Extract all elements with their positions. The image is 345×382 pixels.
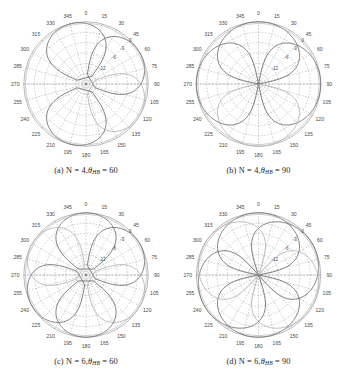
svg-text:330: 330	[219, 20, 228, 26]
svg-text:30: 30	[119, 211, 125, 217]
caption-sub-b: HB	[265, 169, 273, 175]
svg-text:-12: -12	[271, 257, 278, 262]
svg-text:45: 45	[133, 222, 139, 228]
svg-text:0: 0	[257, 10, 260, 16]
svg-text:330: 330	[46, 20, 55, 26]
panel-c: 0153045607590105120135150165180195210225…	[0, 191, 172, 382]
panel-a: 0153045607590105120135150165180195210225…	[0, 0, 172, 191]
svg-text:30: 30	[291, 211, 297, 217]
svg-text:60: 60	[144, 237, 150, 243]
svg-text:240: 240	[20, 307, 29, 313]
svg-text:150: 150	[117, 142, 126, 148]
svg-text:180: 180	[82, 343, 91, 349]
svg-text:-6: -6	[112, 246, 116, 251]
svg-text:210: 210	[46, 142, 55, 148]
caption-sub-a: HB	[92, 169, 100, 175]
svg-text:180: 180	[254, 343, 263, 349]
polar-plot-a: 0153045607590105120135150165180195210225…	[0, 0, 172, 166]
svg-text:300: 300	[193, 46, 202, 52]
panel-caption-b: (b) N = 4,θHB = 90	[172, 166, 345, 175]
svg-text:-6: -6	[112, 55, 116, 60]
svg-text:-12: -12	[99, 66, 106, 71]
svg-text:315: 315	[204, 31, 213, 37]
svg-text:0: 0	[85, 10, 88, 16]
svg-text:-6: -6	[285, 55, 289, 60]
svg-text:135: 135	[132, 131, 141, 137]
svg-text:285: 285	[13, 63, 22, 69]
svg-text:45: 45	[306, 222, 312, 228]
svg-text:165: 165	[273, 149, 282, 155]
svg-text:90: 90	[154, 81, 160, 87]
svg-text:195: 195	[63, 149, 72, 155]
svg-text:270: 270	[184, 81, 193, 87]
svg-text:30: 30	[291, 20, 297, 26]
svg-text:75: 75	[324, 254, 330, 260]
caption-sub-c: HB	[92, 360, 100, 366]
svg-text:195: 195	[236, 340, 245, 346]
svg-text:300: 300	[193, 237, 202, 243]
panel-d: 0153045607590105120135150165180195210225…	[172, 191, 345, 382]
svg-text:165: 165	[273, 340, 282, 346]
svg-text:255: 255	[13, 290, 22, 296]
svg-text:120: 120	[316, 116, 325, 122]
svg-text:285: 285	[13, 254, 22, 260]
svg-text:330: 330	[46, 211, 55, 217]
polar-plot-d: 0153045607590105120135150165180195210225…	[172, 191, 345, 357]
caption-n-a: N = 4,	[66, 166, 88, 175]
svg-text:60: 60	[317, 237, 323, 243]
svg-text:120: 120	[143, 307, 152, 313]
svg-text:105: 105	[150, 99, 159, 105]
svg-text:0: 0	[257, 201, 260, 207]
caption-n-b: N = 4,	[239, 166, 261, 175]
svg-text:60: 60	[144, 46, 150, 52]
svg-text:270: 270	[184, 272, 193, 278]
svg-text:15: 15	[274, 204, 280, 210]
svg-text:45: 45	[133, 31, 139, 37]
svg-text:255: 255	[186, 290, 195, 296]
svg-text:120: 120	[316, 307, 325, 313]
svg-text:345: 345	[236, 13, 245, 19]
svg-text:30: 30	[119, 20, 125, 26]
svg-text:0: 0	[301, 38, 304, 43]
svg-text:105: 105	[150, 290, 159, 296]
svg-text:90: 90	[326, 272, 332, 278]
svg-text:0: 0	[85, 201, 88, 207]
svg-text:15: 15	[101, 13, 107, 19]
svg-text:195: 195	[63, 340, 72, 346]
svg-text:270: 270	[11, 272, 20, 278]
svg-text:135: 135	[304, 131, 313, 137]
svg-text:255: 255	[13, 99, 22, 105]
svg-text:90: 90	[154, 272, 160, 278]
svg-text:240: 240	[20, 116, 29, 122]
svg-text:240: 240	[193, 307, 202, 313]
caption-n-d: N = 6,	[239, 357, 261, 366]
panel-b: 0153045607590105120135150165180195210225…	[172, 0, 345, 191]
caption-prefix-b: (b)	[226, 166, 236, 175]
svg-text:285: 285	[186, 254, 195, 260]
svg-text:285: 285	[186, 63, 195, 69]
svg-text:60: 60	[317, 46, 323, 52]
svg-text:135: 135	[304, 322, 313, 328]
caption-n-c: N = 6,	[66, 357, 88, 366]
svg-text:75: 75	[152, 254, 158, 260]
svg-text:270: 270	[11, 81, 20, 87]
svg-text:150: 150	[290, 142, 299, 148]
svg-text:345: 345	[63, 204, 72, 210]
svg-text:150: 150	[117, 333, 126, 339]
panel-caption-a: (a) N = 4,θHB = 60	[0, 166, 172, 175]
svg-text:345: 345	[63, 13, 72, 19]
svg-text:225: 225	[32, 322, 41, 328]
svg-text:120: 120	[143, 116, 152, 122]
svg-text:-12: -12	[99, 257, 106, 262]
svg-text:15: 15	[101, 204, 107, 210]
svg-text:180: 180	[82, 152, 91, 158]
svg-text:300: 300	[20, 237, 29, 243]
svg-text:315: 315	[32, 31, 41, 37]
svg-text:105: 105	[323, 99, 332, 105]
svg-text:75: 75	[152, 63, 158, 69]
caption-value-a: = 60	[102, 166, 118, 175]
svg-text:75: 75	[324, 63, 330, 69]
svg-text:135: 135	[132, 322, 141, 328]
caption-sub-d: HB	[265, 360, 273, 366]
caption-prefix-d: (d)	[226, 357, 236, 366]
